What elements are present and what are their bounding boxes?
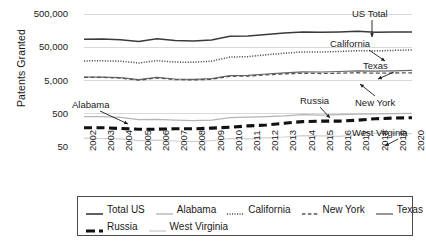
legend-swatch-icon: [86, 222, 103, 232]
annotation-alabama: Alabama: [72, 99, 110, 110]
x-tick-2003: 2003: [106, 130, 116, 151]
legend-swatch-icon: [376, 205, 393, 215]
legend-label: Texas: [397, 204, 423, 215]
legend-swatch-icon: [156, 205, 173, 215]
annotation-russia: Russia: [300, 95, 329, 106]
annotation-california: California: [330, 38, 370, 49]
x-tick-2012: 2012: [270, 130, 280, 151]
y-tick-500: 500: [6, 109, 68, 119]
annotation-new-york: New York: [355, 97, 395, 108]
series-line-new-york: [84, 73, 412, 81]
legend-swatch-icon: [86, 205, 103, 215]
legend-item-new-york[interactable]: New York: [302, 204, 365, 215]
y-tick-500000: 500,000: [6, 9, 68, 19]
annotation-west-virginia: West Virginia: [352, 127, 408, 138]
x-tick-2020: 2020: [416, 130, 426, 151]
legend-item-russia[interactable]: Russia: [86, 221, 138, 232]
legend-item-texas[interactable]: Texas: [376, 204, 423, 215]
x-tick-2009: 2009: [216, 130, 226, 151]
legend-item-total-us[interactable]: Total US: [86, 204, 145, 215]
legend-swatch-icon: [227, 205, 244, 215]
x-tick-2002: 2002: [88, 130, 98, 151]
y-tick-50: 50: [6, 142, 68, 152]
y-axis-ticks: 500,000 50,000 5,000 500 50: [6, 0, 68, 246]
chart-legend: Total USAlabamaCaliforniaNew YorkTexas R…: [77, 196, 413, 236]
x-tick-2011: 2011: [252, 131, 262, 151]
legend-row-secondary: RussiaWest Virginia: [86, 218, 404, 235]
x-tick-2015: 2015: [325, 130, 335, 151]
x-tick-2008: 2008: [197, 130, 207, 151]
y-tick-50000: 50,000: [6, 42, 68, 52]
series-line-texas: [84, 70, 412, 79]
x-tick-2013: 2013: [288, 130, 298, 151]
legend-row-primary: Total USAlabamaCaliforniaNew YorkTexas: [86, 201, 404, 218]
x-tick-2006: 2006: [161, 130, 171, 151]
x-tick-2014: 2014: [307, 130, 317, 151]
x-tick-2010: 2010: [234, 130, 244, 151]
legend-swatch-icon: [302, 205, 319, 215]
legend-label: California: [248, 204, 290, 215]
legend-swatch-icon: [149, 222, 166, 232]
legend-label: New York: [323, 204, 365, 215]
y-tick-5000: 5,000: [6, 76, 68, 86]
legend-item-california[interactable]: California: [227, 204, 290, 215]
legend-label: Alabama: [177, 204, 216, 215]
legend-label: Total US: [107, 204, 145, 215]
legend-label: Russia: [107, 221, 138, 232]
legend-label: West Virginia: [170, 221, 229, 232]
x-tick-2004: 2004: [124, 130, 134, 151]
annotation-texas: Texas: [363, 60, 388, 71]
x-tick-2005: 2005: [143, 130, 153, 151]
legend-item-west-virginia[interactable]: West Virginia: [149, 221, 229, 232]
legend-item-alabama[interactable]: Alabama: [156, 204, 216, 215]
annotation-us-total: US Total: [352, 8, 388, 19]
x-tick-2007: 2007: [179, 130, 189, 151]
